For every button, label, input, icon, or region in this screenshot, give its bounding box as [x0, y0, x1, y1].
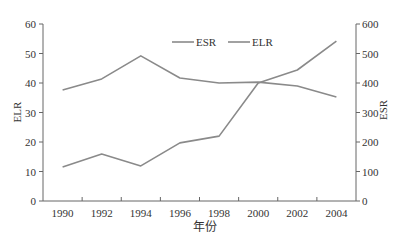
- series-line-elr: [63, 56, 337, 97]
- right-y-tick-label: 0: [362, 195, 368, 207]
- right-y-tick-label: 600: [362, 18, 379, 30]
- x-tick-label: 1990: [52, 207, 75, 219]
- x-tick-label: 1996: [169, 207, 192, 219]
- x-tick-label: 2000: [247, 207, 270, 219]
- right-y-tick-label: 400: [362, 77, 379, 89]
- dual-axis-line-chart: 0102030405060010020030040050060019901992…: [0, 0, 403, 247]
- series-line-esr: [63, 41, 337, 167]
- left-y-tick-label: 0: [31, 195, 37, 207]
- right-y-tick-label: 500: [362, 48, 379, 60]
- x-tick-label: 1998: [208, 207, 231, 219]
- x-tick-label: 2002: [286, 207, 308, 219]
- left-y-axis-label: ELR: [11, 101, 23, 122]
- left-y-tick-label: 10: [25, 166, 37, 178]
- left-y-tick-label: 20: [25, 136, 37, 148]
- plot-lines: [63, 41, 337, 167]
- left-y-tick-label: 60: [25, 18, 37, 30]
- x-tick-label: 2004: [325, 207, 348, 219]
- x-axis-label: 年份: [193, 220, 217, 234]
- left-y-tick-label: 50: [25, 48, 37, 60]
- left-y-tick-label: 30: [25, 107, 37, 119]
- legend-label-elr: ELR: [252, 36, 273, 48]
- right-y-axis-label: ESR: [377, 99, 389, 120]
- legend-label-esr: ESR: [196, 36, 217, 48]
- x-tick-label: 1992: [91, 207, 113, 219]
- legend: ESRELR: [172, 36, 273, 48]
- right-y-tick-label: 200: [362, 136, 379, 148]
- x-tick-label: 1994: [130, 207, 153, 219]
- left-y-tick-label: 40: [25, 77, 37, 89]
- right-y-tick-label: 100: [362, 166, 379, 178]
